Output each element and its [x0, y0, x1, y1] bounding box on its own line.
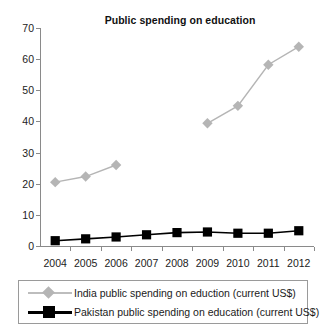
data-point-marker: [233, 229, 242, 238]
pakistan-square-marker-icon: [26, 304, 74, 320]
series-india: [50, 41, 304, 187]
data-point-marker: [203, 227, 212, 236]
data-point-marker: [263, 60, 273, 70]
series-line: [207, 47, 298, 124]
legend-label-india: India public spending on eduction (curre…: [74, 288, 296, 299]
series-plot: [0, 0, 328, 272]
legend-label-pakistan: Pakistan public spending on education (c…: [74, 307, 319, 318]
series-pakistan: [51, 226, 304, 245]
legend-item-india[interactable]: India public spending on eduction (curre…: [19, 283, 307, 303]
data-point-marker: [51, 236, 60, 245]
data-point-marker: [111, 160, 121, 170]
data-point-marker: [50, 177, 60, 187]
data-point-marker: [112, 232, 121, 241]
data-point-marker: [294, 226, 303, 235]
data-point-marker: [294, 41, 304, 51]
legend-item-pakistan[interactable]: Pakistan public spending on education (c…: [19, 302, 307, 322]
data-point-marker: [80, 171, 90, 181]
plot-area: Public spending on education 01020304050…: [0, 0, 328, 272]
data-point-marker: [202, 118, 212, 128]
data-point-marker: [233, 101, 243, 111]
data-point-marker: [81, 234, 90, 243]
data-point-marker: [264, 229, 273, 238]
chart-figure: Public spending on education 01020304050…: [0, 0, 328, 336]
chart-legend: India public spending on eduction (curre…: [18, 280, 308, 324]
data-point-marker: [142, 230, 151, 239]
data-point-marker: [172, 228, 181, 237]
india-diamond-marker-icon: [26, 285, 74, 301]
